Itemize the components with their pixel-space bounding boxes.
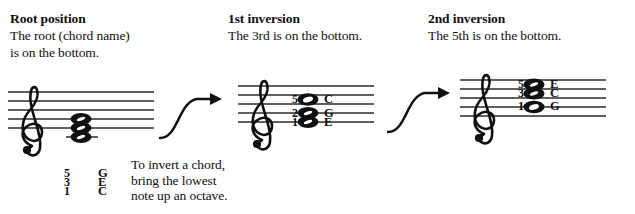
arrow-first-to-second-inversion bbox=[386, 80, 458, 142]
music-staff-root-position bbox=[6, 84, 156, 168]
column-description-second-inversion: The 5th is on the bottom. bbox=[428, 27, 561, 44]
staff-system-second-inversion: 5 3 1 E C G bbox=[458, 72, 608, 162]
note-letters-root-position: G E C bbox=[98, 169, 112, 196]
music-staff-first-inversion bbox=[236, 78, 376, 164]
treble-clef-dot bbox=[253, 140, 261, 148]
note-letter-top-first-inversion: C bbox=[324, 95, 338, 104]
figure-canvas: Root position The root (chord name) is o… bbox=[0, 0, 635, 214]
note-letter-bottom-second-inversion: G bbox=[550, 102, 564, 111]
scale-degree: 1 bbox=[512, 102, 524, 111]
column-heading-first-inversion: 1st inversion bbox=[228, 10, 300, 27]
treble-clef-icon bbox=[475, 75, 494, 143]
scale-degree-top-first-inversion: 5 bbox=[286, 95, 298, 104]
s-curve-arrow-icon bbox=[386, 80, 458, 138]
scale-degree-bottom-second-inversion: 1 bbox=[512, 102, 524, 111]
treble-clef-dot bbox=[23, 146, 31, 154]
scale-degree: 5 bbox=[286, 95, 298, 104]
arrowhead bbox=[438, 87, 450, 99]
caption-how-to-invert: To invert a chord, bring the lowest note… bbox=[131, 157, 227, 204]
description-line-2: is on the bottom. bbox=[10, 44, 130, 61]
chord-noteheads-root-position bbox=[71, 113, 92, 143]
note-letter: E bbox=[324, 118, 338, 127]
scale-degrees-root-position: 5 3 1 bbox=[58, 169, 70, 196]
caption-line-2: bring the lowest bbox=[131, 173, 227, 189]
description-line-1: The 5th is on the bottom. bbox=[428, 27, 561, 44]
note-letter: C bbox=[324, 95, 338, 104]
column-heading-second-inversion: 2nd inversion bbox=[428, 10, 505, 27]
column-description-root-position: The root (chord name) is on the bottom. bbox=[10, 27, 130, 61]
description-line-1: The 3rd is on the bottom. bbox=[228, 27, 362, 44]
scale-degree: 1 bbox=[58, 187, 70, 196]
note-letter: C bbox=[98, 187, 112, 196]
staff-system-root-position: 5 3 1 G E C bbox=[6, 84, 156, 168]
music-staff-second-inversion bbox=[458, 72, 608, 162]
treble-clef-icon bbox=[253, 81, 272, 149]
treble-clef-dot bbox=[475, 134, 483, 142]
caption-line-1: To invert a chord, bbox=[131, 157, 227, 173]
scale-degrees-lower-first-inversion: 2 1 bbox=[286, 109, 298, 127]
scale-degree: 1 bbox=[286, 118, 298, 127]
note-letters-upper-second-inversion: E C bbox=[550, 80, 564, 98]
s-curve-arrow-icon bbox=[158, 86, 230, 144]
column-description-first-inversion: The 3rd is on the bottom. bbox=[228, 27, 362, 44]
scale-degrees-upper-second-inversion: 5 3 bbox=[512, 80, 524, 98]
chord-noteheads-second-inversion bbox=[524, 79, 545, 114]
description-line-1: The root (chord name) bbox=[10, 27, 130, 44]
arrowhead bbox=[210, 93, 222, 105]
column-heading-root-position: Root position bbox=[10, 10, 86, 27]
scale-degree: 3 bbox=[512, 89, 524, 98]
note-letters-lower-first-inversion: G E bbox=[324, 109, 338, 127]
staff-system-first-inversion: 5 2 1 C G E bbox=[236, 78, 376, 164]
note-letter: G bbox=[550, 102, 564, 111]
treble-clef-icon bbox=[23, 87, 42, 155]
arrow-root-to-first-inversion bbox=[158, 86, 230, 148]
note-letter: C bbox=[550, 89, 564, 98]
chord-noteheads-first-inversion bbox=[298, 93, 319, 128]
caption-line-3: note up an octave. bbox=[131, 188, 227, 204]
